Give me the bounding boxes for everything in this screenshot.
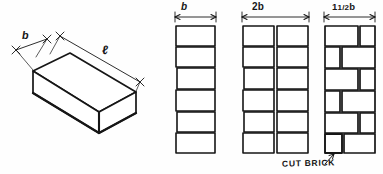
brick-cell-cut	[360, 113, 375, 133]
wall-column-b-header: b	[181, 2, 188, 12]
wall-column-1half-b	[324, 12, 375, 153]
brick-cell	[277, 133, 308, 153]
dimension-line-col3	[324, 12, 375, 22]
brick-cell-full	[325, 69, 358, 90]
wall-column-2b	[242, 12, 309, 153]
header-suffix: b	[349, 1, 355, 12]
brick-cell	[277, 90, 308, 111]
brick-cell-cut	[325, 47, 340, 68]
brick-cell	[176, 90, 215, 111]
brick-cell	[176, 26, 215, 46]
wall-column-1half-b-header: 11/2b	[332, 2, 355, 12]
brick-cell	[277, 47, 308, 67]
brick-cell	[277, 112, 308, 132]
header-fraction: 1/2	[337, 3, 349, 12]
brick-cell	[244, 112, 274, 132]
brick-cell	[243, 90, 274, 111]
isometric-brick	[12, 32, 144, 133]
cut-brick-annotation: CUT BRICK	[282, 158, 335, 168]
brick-cell	[243, 133, 274, 153]
wall-column-2b-header: 2b	[252, 2, 264, 12]
brick-cell-full	[344, 134, 375, 153]
brick-cell	[177, 112, 215, 132]
dimension-line-col2	[242, 12, 309, 22]
brick-cell-cut-annotated	[325, 134, 342, 153]
sketch-canvas	[0, 0, 383, 174]
brick-length-label: ℓ	[102, 44, 109, 56]
brick-cell	[177, 68, 215, 89]
brick-cell	[243, 26, 274, 46]
brick-cell	[176, 47, 215, 67]
brick-cell-full	[325, 113, 358, 133]
dimension-line-col1	[175, 12, 216, 22]
brick-cell-full	[342, 91, 375, 112]
brick-cell	[277, 26, 308, 46]
brick-cell-full	[325, 26, 358, 46]
brick-dimension-figure: b ℓ b 2b 11/2b CUT BRICK	[0, 0, 383, 174]
brick-cell	[277, 68, 308, 89]
brick-width-label: b	[22, 30, 30, 41]
brick-cell	[243, 47, 274, 67]
brick-cell	[244, 68, 274, 89]
brick-cell-full	[342, 47, 375, 68]
wall-column-b	[175, 12, 216, 153]
brick-cell-cut	[360, 69, 375, 90]
brick-cell-cut	[325, 91, 340, 112]
brick-cell	[176, 133, 215, 153]
brick-cell-cut	[360, 26, 375, 46]
